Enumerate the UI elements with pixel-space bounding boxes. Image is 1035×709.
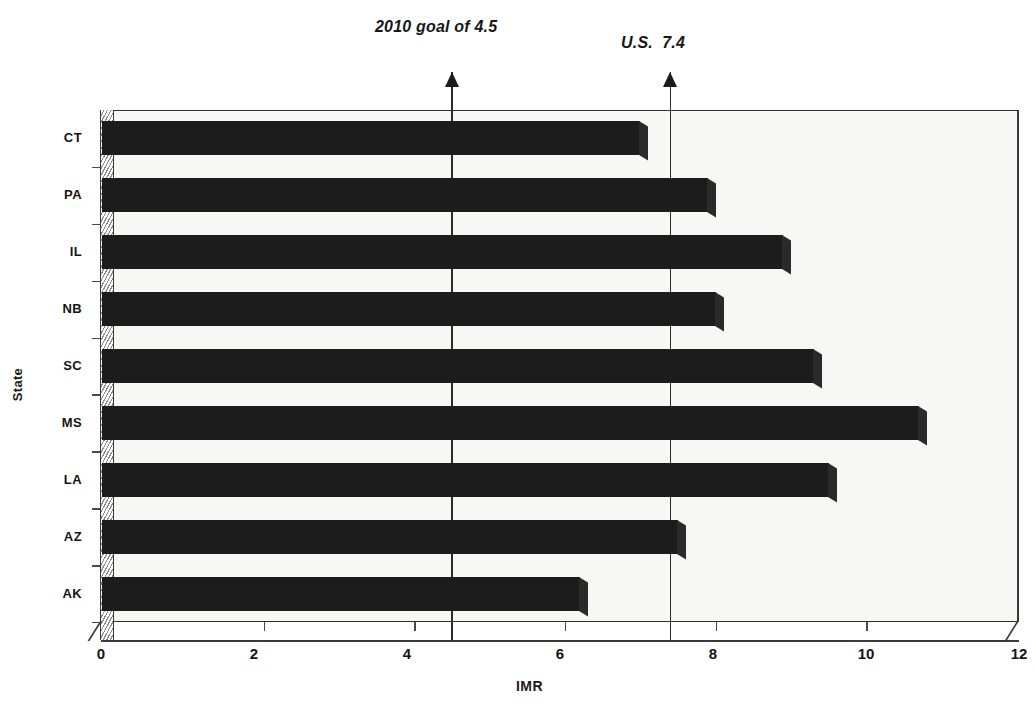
y-tick-mark xyxy=(92,167,100,168)
x-tick-mark xyxy=(565,622,566,631)
bar-3d-cap xyxy=(715,292,724,332)
x-tick-label-6: 6 xyxy=(533,645,587,662)
bar-3d-cap xyxy=(677,520,686,560)
bar-body xyxy=(102,178,708,212)
x-tick-label-10: 10 xyxy=(839,645,893,662)
bar-3d-cap xyxy=(828,463,837,503)
reference-arrow-goal-icon xyxy=(445,72,459,87)
x-axis-title: IMR xyxy=(0,678,1035,694)
bar-body xyxy=(102,406,919,440)
bar-body xyxy=(102,577,580,611)
bar-body xyxy=(102,235,783,269)
y-tick-label-sc: SC xyxy=(20,358,82,373)
plot-frame-right-edge xyxy=(1017,110,1019,622)
reference-arrow-us-icon xyxy=(663,72,677,87)
y-tick-label-la: LA xyxy=(20,472,82,487)
x-tick-label-12: 12 xyxy=(992,645,1035,662)
x-tick-mark xyxy=(264,622,265,631)
y-tick-label-ak: AK xyxy=(20,586,82,601)
bar-body xyxy=(102,349,814,383)
y-tick-label-ct: CT xyxy=(20,130,82,145)
y-tick-mark xyxy=(92,508,100,509)
bar-sc xyxy=(102,349,814,383)
y-tick-label-nb: NB xyxy=(20,301,82,316)
bar-3d-cap xyxy=(639,121,648,161)
bar-ak xyxy=(102,577,580,611)
y-tick-mark xyxy=(92,451,100,452)
bar-az xyxy=(102,520,678,554)
bar-3d-cap xyxy=(813,349,822,389)
plot-floor-front-edge xyxy=(101,640,1019,642)
bar-3d-cap xyxy=(918,406,927,446)
x-tick-label-2: 2 xyxy=(227,645,281,662)
y-tick-label-ms: MS xyxy=(20,415,82,430)
x-tick-label-4: 4 xyxy=(380,645,434,662)
y-tick-mark xyxy=(92,281,100,282)
y-tick-mark xyxy=(92,622,100,623)
bar-body xyxy=(102,463,829,497)
y-tick-label-il: IL xyxy=(20,244,82,259)
bar-ct xyxy=(102,121,640,155)
bar-la xyxy=(102,463,829,497)
x-tick-mark xyxy=(716,622,717,631)
bar-3d-cap xyxy=(579,577,588,617)
bar-chart: 2010 goal of 4.5 U.S. 7.4 CTPAILNBSCMSLA… xyxy=(0,0,1035,709)
y-tick-label-pa: PA xyxy=(20,187,82,202)
annotation-label-2010-goal: 2010 goal of 4.5 xyxy=(375,18,497,36)
annotation-label-us-rate: U.S. 7.4 xyxy=(621,34,685,52)
bar-pa xyxy=(102,178,708,212)
bar-nb xyxy=(102,292,716,326)
bar-3d-cap xyxy=(707,178,716,218)
bar-il xyxy=(102,235,783,269)
y-tick-mark xyxy=(92,224,100,225)
bar-ms xyxy=(102,406,919,440)
x-tick-label-0: 0 xyxy=(74,645,128,662)
y-tick-mark xyxy=(92,338,100,339)
x-tick-mark xyxy=(414,622,415,631)
y-tick-label-az: AZ xyxy=(20,529,82,544)
y-tick-mark xyxy=(92,565,100,566)
x-tick-label-8: 8 xyxy=(686,645,740,662)
bar-body xyxy=(102,520,678,554)
bar-3d-cap xyxy=(782,235,791,275)
y-axis-title: State xyxy=(10,355,25,415)
bar-body xyxy=(102,292,716,326)
y-tick-mark xyxy=(92,394,100,395)
plot-floor-right-edge xyxy=(1005,621,1019,641)
x-tick-mark xyxy=(866,622,867,631)
bar-body xyxy=(102,121,640,155)
